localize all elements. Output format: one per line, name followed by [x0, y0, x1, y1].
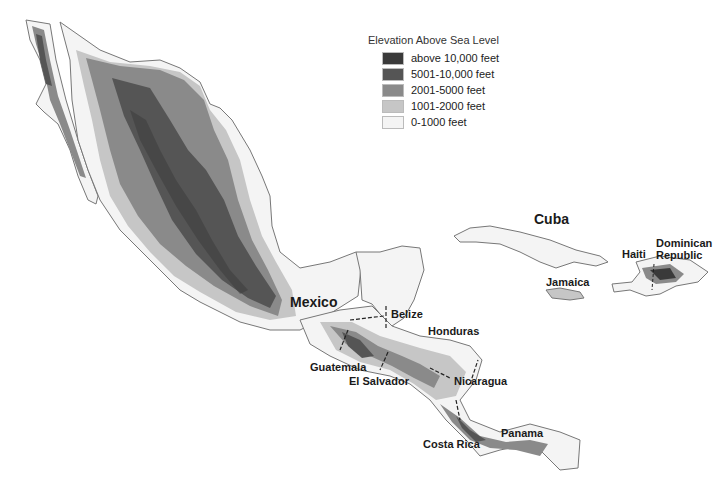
hispaniola-island	[612, 256, 708, 296]
mexico-mainland	[60, 22, 362, 330]
label-dominican-republic-line1: Dominican	[656, 238, 712, 249]
label-dominican-republic-line2: Republic	[656, 250, 702, 261]
label-haiti: Haiti	[622, 249, 646, 260]
legend-item-1001-2000: 1001-2000 feet	[382, 98, 528, 114]
legend-swatch	[382, 68, 404, 81]
label-nicaragua: Nicaragua	[454, 376, 507, 387]
legend-label: 5001-10,000 feet	[411, 68, 494, 80]
legend-label: 0-1000 feet	[411, 116, 467, 128]
legend-title: Elevation Above Sea Level	[368, 34, 528, 46]
legend-item-5001-10000: 5001-10,000 feet	[382, 66, 528, 82]
label-honduras: Honduras	[428, 326, 479, 337]
legend-swatch	[382, 100, 404, 113]
label-jamaica: Jamaica	[546, 277, 589, 288]
label-panama: Panama	[501, 428, 543, 439]
cuba-island	[454, 226, 608, 268]
legend-swatch	[382, 84, 404, 97]
legend-swatch	[382, 52, 404, 65]
elevation-legend: Elevation Above Sea Level above 10,000 f…	[368, 34, 528, 130]
label-belize: Belize	[391, 309, 423, 320]
label-el-salvador: El Salvador	[349, 376, 409, 387]
label-guatemala: Guatemala	[310, 362, 366, 373]
legend-item-above-10000: above 10,000 feet	[382, 50, 528, 66]
legend-label: above 10,000 feet	[411, 52, 499, 64]
jamaica-island	[546, 288, 584, 300]
legend-item-2001-5000: 2001-5000 feet	[382, 82, 528, 98]
legend-label: 2001-5000 feet	[411, 84, 485, 96]
elevation-map	[0, 0, 724, 500]
legend-label: 1001-2000 feet	[411, 100, 485, 112]
legend-item-0-1000: 0-1000 feet	[382, 114, 528, 130]
label-costa-rica: Costa Rica	[423, 439, 480, 450]
label-mexico: Mexico	[290, 295, 337, 309]
label-cuba: Cuba	[534, 212, 569, 226]
legend-swatch	[382, 116, 404, 129]
